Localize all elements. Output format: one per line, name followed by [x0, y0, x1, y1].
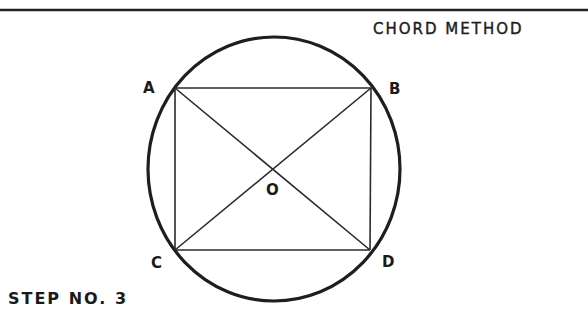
point-label-b: B — [389, 82, 400, 97]
step-label: STEP NO. 3 — [8, 291, 128, 307]
chord-bd — [370, 88, 371, 250]
point-label-d: D — [382, 255, 394, 270]
center-label-o: O — [266, 183, 279, 198]
figure-title: CHORD METHOD — [373, 22, 524, 37]
diagram-canvas: CHORD METHOD A B C D O STEP NO. 3 — [0, 0, 588, 318]
chord-method-figure — [0, 0, 588, 318]
point-label-a: A — [143, 81, 155, 96]
point-label-c: C — [151, 256, 162, 271]
